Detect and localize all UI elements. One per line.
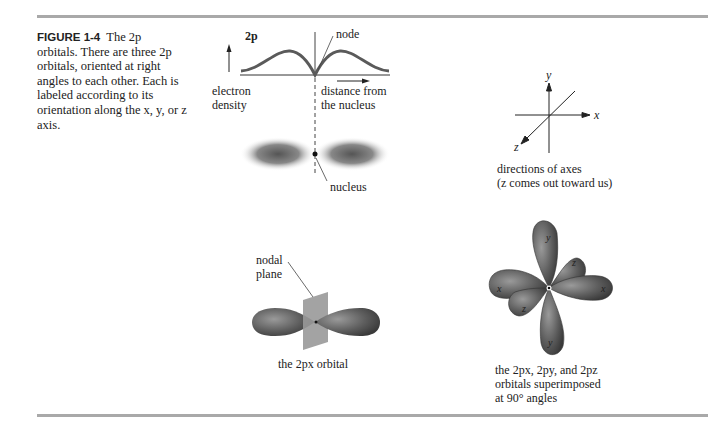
node-label: node xyxy=(336,27,359,41)
nucleus-label: nucleus xyxy=(330,180,367,194)
axis-x-label: x xyxy=(594,108,599,122)
lobe-label-x-right: x xyxy=(601,282,605,296)
axes-caption: directions of axes(z comes out toward us… xyxy=(497,162,612,190)
lobe-label-x-left: x xyxy=(497,282,501,296)
lobe-label-z-front: z xyxy=(522,302,526,316)
superimposed-orbitals xyxy=(489,221,612,355)
lobe-label-y-bottom: y xyxy=(548,336,552,350)
superimposed-caption: the 2px, 2py, and 2pzorbitals superimpos… xyxy=(495,363,601,405)
px-caption: the 2px orbital xyxy=(278,357,348,371)
lobe-label-y-top: y xyxy=(546,231,550,245)
nodal-plane-label: nodalplane xyxy=(256,253,283,281)
axis-y-label: y xyxy=(546,68,551,82)
x-axis-label: distance fromthe nucleus xyxy=(321,84,387,112)
lobe-label-z-back: z xyxy=(572,256,576,270)
y-axis-label: electrondensity xyxy=(212,84,251,112)
axis-z-label: z xyxy=(514,140,519,154)
figure-graphics xyxy=(0,0,708,433)
axes-diagram xyxy=(515,83,590,153)
plot-title: 2p xyxy=(245,29,258,43)
